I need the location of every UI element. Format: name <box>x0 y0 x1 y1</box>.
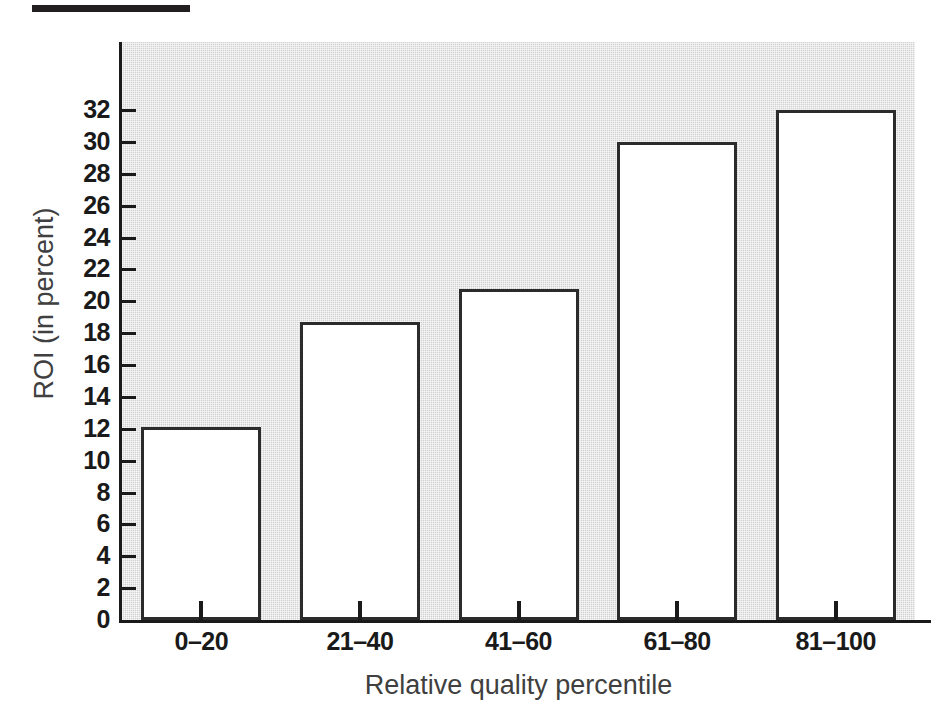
bar <box>617 142 737 620</box>
x-axis-tick-label: 81–100 <box>756 629 915 654</box>
y-axis-tick <box>122 237 136 240</box>
y-axis-tick-label: 4 <box>0 543 110 569</box>
x-axis-tick-label: 41–60 <box>439 629 598 654</box>
x-axis-tick-label: 0–20 <box>122 629 281 654</box>
y-axis-tick-label-text: 8 <box>0 480 110 505</box>
y-axis-tick-label: 32 <box>0 97 110 123</box>
y-axis-tick-label: 10 <box>0 448 110 474</box>
x-axis-tick <box>199 601 203 621</box>
y-axis-tick <box>122 109 136 112</box>
x-axis-tick <box>834 601 838 621</box>
x-axis-line <box>119 620 931 623</box>
y-axis-tick-label: 8 <box>0 480 110 506</box>
y-axis-tick-label-text: 2 <box>0 575 110 600</box>
y-axis-tick <box>122 523 136 526</box>
y-axis-tick-label-text: 6 <box>0 511 110 536</box>
y-axis-tick <box>122 396 136 399</box>
y-axis-tick-label: 2 <box>0 575 110 601</box>
y-axis-tick-label-text: 10 <box>0 448 110 473</box>
figure: 02468101214161820222426283032 0–2021–404… <box>0 0 950 725</box>
y-axis-tick-label-text: 0 <box>0 607 110 632</box>
y-axis-tick <box>122 300 136 303</box>
y-axis-tick <box>122 492 136 495</box>
y-axis-tick-label: 30 <box>0 129 110 155</box>
x-axis-tick <box>675 601 679 621</box>
x-axis-tick <box>517 601 521 621</box>
y-axis-tick-label: 6 <box>0 511 110 537</box>
y-axis-tick <box>122 555 136 558</box>
y-axis-tick <box>122 364 136 367</box>
y-axis-tick <box>122 268 136 271</box>
x-axis-tick-label: 21–40 <box>281 629 440 654</box>
bar <box>459 289 579 621</box>
y-axis-tick <box>122 428 136 431</box>
y-axis-tick <box>122 173 136 176</box>
x-axis-title: Relative quality percentile <box>122 672 915 699</box>
y-axis-tick-label-text: 4 <box>0 543 110 568</box>
y-axis-tick <box>122 205 136 208</box>
y-axis-tick-label: 0 <box>0 607 110 633</box>
y-axis-tick <box>122 141 136 144</box>
y-axis-title: ROI (in percent) <box>31 174 58 434</box>
x-axis-tick-label: 61–80 <box>598 629 757 654</box>
y-axis-tick-label-text: 32 <box>0 97 110 122</box>
x-axis-tick <box>358 601 362 621</box>
y-axis-tick-label-text: 30 <box>0 129 110 154</box>
y-axis-tick <box>122 332 136 335</box>
y-axis-tick <box>122 460 136 463</box>
y-axis-tick <box>122 587 136 590</box>
decorative-top-rule <box>32 5 190 12</box>
bar <box>776 110 896 620</box>
bar <box>300 322 420 620</box>
bar <box>141 427 261 620</box>
